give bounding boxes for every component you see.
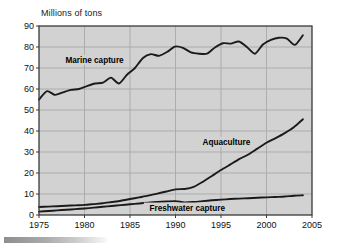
footer-accent-bar: [4, 237, 108, 243]
y-axis-tick-label: 80: [24, 42, 34, 52]
x-axis-tick-label: 1975: [29, 220, 49, 230]
series-label-aquaculture: Aquaculture: [203, 138, 251, 147]
x-axis-tick-label: 2005: [302, 220, 322, 230]
x-axis-tick-label: 1990: [165, 220, 185, 230]
y-axis-tick-label: 60: [24, 84, 34, 94]
series-label-marine-capture: Marine capture: [65, 56, 124, 65]
y-axis-tick-label: 90: [24, 21, 34, 31]
x-axis-tick-label: 1980: [74, 220, 94, 230]
series-label-freshwater-capture: Freshwater capture: [150, 204, 226, 213]
x-axis-tick-label: 1985: [120, 220, 140, 230]
y-axis-tick-label: 50: [24, 105, 34, 115]
x-axis-tick-label: 2000: [256, 220, 276, 230]
line-chart-plot: 0102030405060708090 19751980198519901995…: [0, 0, 338, 248]
y-axis-tick-label: 40: [24, 126, 34, 136]
y-axis-tick-label: 10: [24, 189, 34, 199]
x-axis-tick-label: 1995: [211, 220, 231, 230]
chart-figure: Millions of tons 0102030405060708090 197…: [0, 0, 338, 248]
y-axis-tick-label: 70: [24, 63, 34, 73]
y-axis-tick-label: 0: [29, 210, 34, 220]
y-axis-tick-labels: 0102030405060708090: [24, 21, 34, 220]
x-axis-tick-labels: 1975198019851990199520002005: [29, 220, 322, 230]
y-axis-tick-label: 30: [24, 147, 34, 157]
y-axis-tick-label: 20: [24, 168, 34, 178]
